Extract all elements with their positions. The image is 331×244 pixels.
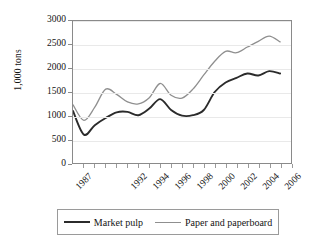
x-axis-tick-label: 1987 [66,171,94,199]
legend-item-paper-and-paperboard: Paper and paperboard [155,217,272,228]
legend-item-market-pulp: Market pulp [64,217,143,228]
legend-label-market-pulp: Market pulp [94,217,143,228]
y-axis-tick-label: 2000 [47,62,66,72]
y-axis-title: 1,000 tons [13,25,29,115]
y-axis-tick [68,140,72,141]
x-axis-tick [248,164,249,168]
x-axis-tick [127,164,128,168]
x-axis-tick [193,164,194,168]
x-axis-tick [281,164,282,168]
line-chart: 1,000 tons 300025002000150010005000 1987… [0,0,331,244]
series-line-market-pulp [73,71,280,135]
gridline [73,69,291,70]
x-axis-tick [259,164,260,168]
gridline [73,117,291,118]
gridline [73,45,291,46]
plot-area [72,20,292,164]
x-axis-tick [215,164,216,168]
y-axis-tick-label: 1500 [47,86,66,96]
x-axis-tick [105,164,106,168]
y-axis-tick [68,92,72,93]
x-axis-tick [138,164,139,168]
x-axis-tick [171,164,172,168]
y-axis-tick [68,68,72,69]
series-line-paper-and-paperboard [73,36,280,120]
y-axis-tick-label: 3000 [47,14,66,24]
x-axis-tick [116,164,117,168]
x-axis-tick [83,164,84,168]
x-axis-tick [160,164,161,168]
x-axis-tick [237,164,238,168]
x-axis-tick [149,164,150,168]
legend-label-paper-and-paperboard: Paper and paperboard [185,217,272,228]
legend-line-icon-market-pulp [64,221,90,223]
gridline [73,141,291,142]
y-axis-tick [68,20,72,21]
y-axis-tick-label: 2500 [47,38,66,48]
x-axis-tick [204,164,205,168]
x-axis-tick [270,164,271,168]
x-axis-tick [94,164,95,168]
legend-line-icon-paper-and-paperboard [155,222,181,223]
y-axis-tick-label: 0 [61,158,66,168]
x-axis-tick [182,164,183,168]
y-axis-tick-label: 500 [52,134,66,144]
chart-legend: Market pulp Paper and paperboard [57,209,279,235]
y-axis-tick [68,44,72,45]
y-axis-tick-label: 1000 [47,110,66,120]
x-axis-tick [292,164,293,168]
gridline [73,93,291,94]
y-axis-tick [68,164,72,165]
gridline [73,21,291,22]
y-axis-tick [68,116,72,117]
x-axis-tick [226,164,227,168]
